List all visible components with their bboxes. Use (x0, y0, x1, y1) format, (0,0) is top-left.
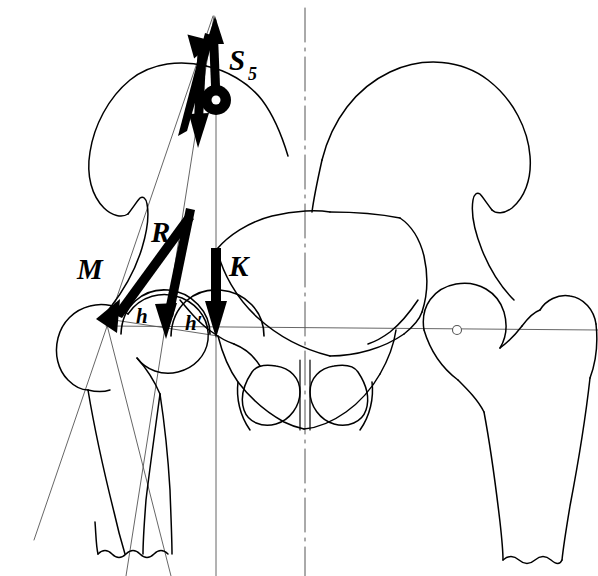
label-body-weight-force: K (228, 250, 250, 282)
label-lever-arm-h-prime: h′ (185, 311, 203, 335)
label-center-of-gravity-subscript: 5 (248, 64, 257, 84)
center-of-gravity-marker (201, 85, 231, 115)
canvas-background (0, 0, 598, 576)
label-lever-arm-h: h (136, 304, 148, 328)
diagram-canvas: M R K h h′ S 5 (0, 0, 598, 576)
hip-force-diagram: M R K h h′ S 5 (0, 0, 598, 576)
label-muscle-force: M (76, 253, 104, 285)
label-center-of-gravity: S (229, 44, 245, 76)
label-resultant-force: R (150, 216, 170, 248)
right-hip-center-marker (453, 326, 462, 335)
